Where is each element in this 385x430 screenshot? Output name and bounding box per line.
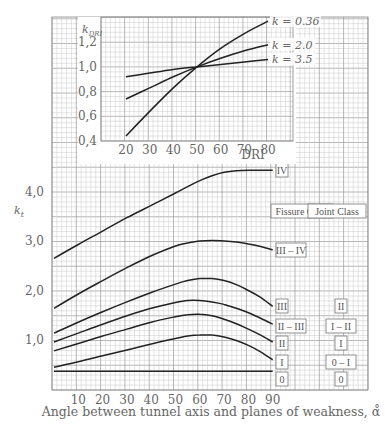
svg-text:k = 0.36: k = 0.36	[272, 15, 319, 28]
y-tick-label: 1,0	[25, 333, 44, 347]
fissure-class-label: IV	[276, 163, 288, 177]
y-tick-label: 2,0	[25, 284, 44, 298]
inset-tick-label: 40	[166, 143, 181, 157]
svg-text:Joint Class: Joint Class	[315, 206, 359, 217]
svg-text:I: I	[339, 338, 342, 349]
inset-chart: k = 0.36k = 2.0k = 3.5 203040506070800,4…	[78, 14, 321, 164]
svg-text:k = 2.0: k = 2.0	[272, 39, 312, 52]
joint-class-label: 0	[335, 372, 347, 386]
svg-text:0: 0	[339, 374, 344, 385]
inset-curve-label: k = 0.36	[270, 14, 321, 28]
y-tick-label: 3,0	[25, 234, 44, 248]
inset-x-axis-title: DRI	[241, 148, 265, 162]
svg-text:I – II: I – II	[331, 321, 351, 332]
curve-class-5	[54, 335, 273, 367]
inset-curve-label: k = 2.0	[270, 38, 315, 52]
fissure-class-label: III	[276, 299, 288, 313]
inset-tick-label: 0,4	[78, 134, 97, 148]
svg-text:III – IV: III – IV	[276, 245, 307, 256]
svg-text:II: II	[279, 338, 286, 349]
chart: 1020304050607080901,02,03,04,0 Fissure C…	[0, 0, 385, 430]
inset-tick-label: 1,0	[78, 60, 97, 74]
fissure-class-label: 0	[276, 372, 288, 386]
svg-text:k = 3.5: k = 3.5	[272, 53, 312, 66]
svg-text:II – III: II – III	[278, 321, 305, 332]
svg-text:0 – I: 0 – I	[332, 357, 350, 368]
y-tick-label: 4,0	[25, 185, 44, 199]
fissure-class-label: II	[276, 336, 288, 350]
joint-class-label: I – II	[326, 319, 356, 333]
fissure-class-label: III – IV	[276, 243, 307, 257]
svg-text:0: 0	[280, 374, 285, 385]
joint-class-label: I	[335, 336, 347, 350]
joint-class-label: II	[335, 299, 347, 313]
curve-class-1	[54, 241, 273, 309]
inset-tick-label: 30	[142, 143, 157, 157]
joint-class-label: 0 – I	[326, 355, 356, 369]
inset-tick-label: 50	[189, 143, 204, 157]
joint-class-header: Joint Class	[308, 204, 366, 218]
main-y-axis-label: kt	[14, 204, 25, 219]
svg-text:IV: IV	[277, 165, 288, 176]
main-plot-curves	[54, 170, 273, 371]
inset-tick-label: 60	[213, 143, 228, 157]
curve-class-0	[54, 170, 273, 258]
inset-tick-label: 0,6	[78, 109, 97, 123]
fissure-class-label: I	[276, 355, 288, 369]
svg-text:II: II	[338, 301, 345, 312]
svg-text:III: III	[277, 301, 287, 312]
inset-tick-label: 20	[118, 143, 133, 157]
inset-curve-label: k = 3.5	[270, 52, 315, 66]
inset-tick-label: 0,8	[78, 85, 97, 99]
svg-text:I: I	[280, 357, 283, 368]
fissure-class-label: II – III	[276, 319, 306, 333]
main-x-axis-title: Angle between tunnel axis and planes of …	[41, 404, 381, 419]
